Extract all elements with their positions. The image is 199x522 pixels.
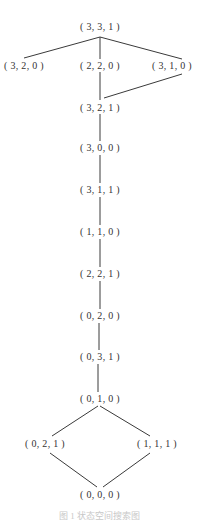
node-n110: ( 1, 1, 0 ) xyxy=(79,226,121,238)
node-n010: ( 0, 1, 0 ) xyxy=(79,393,121,405)
edge-n331-n310 xyxy=(100,37,182,59)
node-n111: ( 1, 1, 1 ) xyxy=(136,438,178,450)
node-n220: ( 2, 2, 0 ) xyxy=(79,60,121,72)
edge-n010-n021 xyxy=(52,406,98,436)
edge-n111-n000 xyxy=(103,453,150,487)
node-n320: ( 3, 2, 0 ) xyxy=(3,60,45,72)
node-n311: ( 3, 1, 1 ) xyxy=(79,184,121,196)
node-n020: ( 0, 2, 0 ) xyxy=(79,310,121,322)
edge-n010-n111 xyxy=(100,406,150,436)
node-n031: ( 0, 3, 1 ) xyxy=(79,351,121,363)
node-n221: ( 2, 2, 1 ) xyxy=(79,268,121,280)
edge-n021-n000 xyxy=(50,453,97,487)
edge-n331-n320 xyxy=(24,37,100,58)
node-n331: ( 3, 3, 1 ) xyxy=(79,21,121,33)
node-n310: ( 3, 1, 0 ) xyxy=(151,60,193,72)
figure-caption: 图 1 状态空间搜索图 xyxy=(0,510,199,522)
node-n300: ( 3, 0, 0 ) xyxy=(79,142,121,154)
node-n000: ( 0, 0, 0 ) xyxy=(79,489,121,501)
edge-n310-n321 xyxy=(104,74,182,98)
node-n021: ( 0, 2, 1 ) xyxy=(24,438,66,450)
node-n321: ( 3, 2, 1 ) xyxy=(79,102,121,114)
